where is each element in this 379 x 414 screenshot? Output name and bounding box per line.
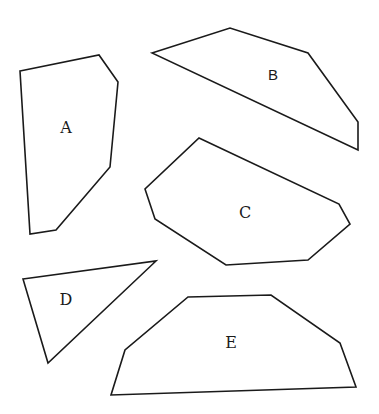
label-e: E xyxy=(225,333,237,352)
shape-c: C xyxy=(145,138,350,265)
label-c: C xyxy=(239,203,251,222)
shape-e: E xyxy=(111,295,356,395)
polygon-a xyxy=(20,55,118,234)
shape-b: B xyxy=(152,28,358,150)
polygon-c xyxy=(145,138,350,265)
shape-a: A xyxy=(20,55,118,234)
label-b: B xyxy=(268,66,278,83)
polygon-b xyxy=(152,28,358,150)
polygon-d xyxy=(23,261,156,363)
label-d: D xyxy=(60,290,73,309)
label-a: A xyxy=(59,118,72,137)
polygons-diagram: A B C D E xyxy=(0,0,379,414)
shape-d: D xyxy=(23,261,156,363)
